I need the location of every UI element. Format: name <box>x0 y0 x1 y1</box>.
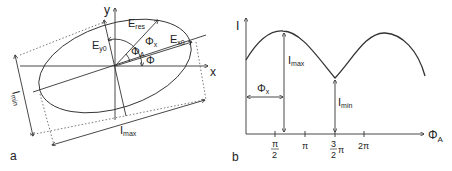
tick-three-half-den: 2 <box>331 150 336 160</box>
e-x0-label: Ex0 <box>170 33 185 46</box>
i-min-label: Imin <box>338 96 352 109</box>
i-min-label: Imin <box>9 89 25 106</box>
phi-a-axis-label: ΦA <box>428 128 444 144</box>
panel-a-labels: x y Eres Ex0 Ey0 Φx ΦA Φ Imin Imax a <box>9 3 216 163</box>
y-axis-label: y <box>104 3 110 17</box>
panel-b <box>246 18 425 137</box>
diagram-canvas: x y Eres Ex0 Ey0 Φx ΦA Φ Imin Imax a I Φ… <box>0 0 452 171</box>
phi-label: Φ <box>146 54 155 66</box>
panel-a <box>15 2 208 145</box>
tick-pi-half-num: π <box>272 139 278 149</box>
i-max-label: Imax <box>288 54 305 67</box>
x-axis-label: x <box>210 65 216 79</box>
e-y0-label: Ey0 <box>92 39 107 53</box>
tick-three-half-num: 3 <box>331 139 336 149</box>
tick-two-pi: 2π <box>358 141 369 151</box>
panel-b-label: b <box>232 150 239 164</box>
tick-pi-half-den: 2 <box>272 150 277 160</box>
tick-pi: π <box>302 141 308 151</box>
tick-three-half-pi: π <box>338 145 344 155</box>
panel-b-labels: I ΦA Imax Imin Φx π 2 π 3 2 π 2π b <box>232 19 444 164</box>
i-max-label: Imax <box>120 124 137 137</box>
i-axis-label: I <box>236 19 239 33</box>
phi-x-label: Φx <box>145 35 158 48</box>
phi-a-label: ΦA <box>131 45 145 58</box>
intensity-curve <box>246 31 425 78</box>
i-max-dimension <box>52 100 205 145</box>
panel-a-label: a <box>10 149 17 163</box>
phi-x-label: Φx <box>257 82 270 95</box>
